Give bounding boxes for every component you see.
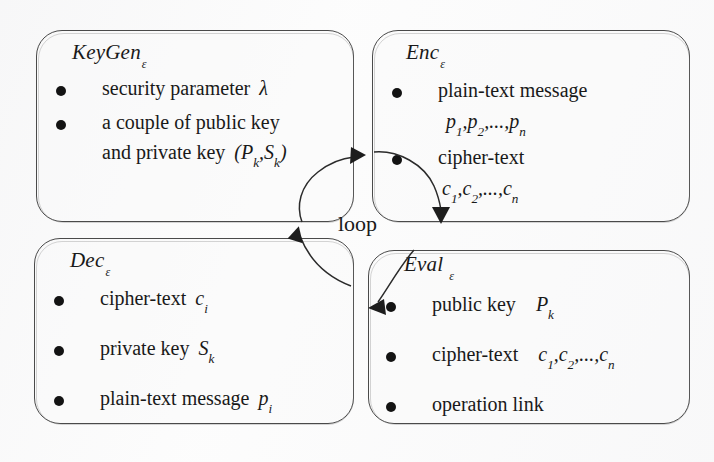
- box-keygen-bullets: security parameterλ a couple of public k…: [48, 78, 348, 166]
- keygen-public-key-subscript: k: [253, 155, 259, 170]
- eval-cn-symbol: c: [599, 343, 608, 365]
- list-item: public keyPk: [378, 294, 690, 318]
- list-item-continuation: p1,p2,...,pn: [384, 111, 684, 135]
- bullet-dot-icon: [56, 86, 66, 96]
- bullet-dot-icon: [54, 346, 64, 356]
- enc-item-2-label: cipher-text: [438, 146, 524, 168]
- dec-item-2-label: private key: [100, 337, 189, 359]
- dec-ciphertext-symbol: c: [195, 287, 204, 309]
- box-eval-title: Evalε: [404, 252, 453, 280]
- list-item: cipher-textci: [46, 288, 350, 312]
- list-item: plain-text message: [384, 80, 684, 100]
- figure-canvas: KeyGenε security parameterλ a couple of …: [0, 0, 714, 462]
- bullet-dot-icon: [54, 396, 64, 406]
- dec-plaintext-subscript: i: [268, 401, 272, 416]
- list-item: private keySk: [46, 338, 350, 362]
- enc-cn-subscript: n: [512, 191, 519, 206]
- enc-c1-symbol: c: [442, 177, 451, 199]
- enc-cn-symbol: c: [503, 177, 512, 199]
- list-item: operation link: [378, 394, 690, 414]
- list-item: security parameterλ: [48, 78, 348, 98]
- eval-item-1-label: public key: [432, 293, 516, 315]
- enc-sep-2: ,...,: [484, 110, 509, 132]
- bullet-dot-icon: [56, 120, 66, 130]
- eval-c-sep-2: ,...,: [574, 343, 599, 365]
- box-eval-bullets: public keyPk cipher-textc1,c2,...,cn ope…: [378, 294, 690, 414]
- keygen-public-key-symbol: (P: [234, 141, 253, 163]
- dec-item-1-symbol: ci: [195, 287, 208, 309]
- dec-privatekey-subscript: k: [208, 351, 214, 366]
- keygen-item-1-symbol: λ: [259, 77, 268, 99]
- eval-c2-symbol: c: [559, 343, 568, 365]
- keygen-item-2-symbols: (Pk,Sk): [234, 141, 286, 163]
- keygen-symbol-close-paren: ): [280, 141, 287, 163]
- keygen-item-2-label-line2: and private key: [102, 141, 225, 163]
- box-enc-title-subscript: ε: [440, 57, 445, 71]
- dec-item-2-symbol: Sk: [198, 337, 214, 359]
- keygen-item-2-label: a couple of public key: [102, 111, 280, 133]
- enc-p2-symbol: p: [468, 110, 478, 132]
- bullet-dot-icon: [386, 402, 396, 412]
- enc-pn-symbol: p: [509, 110, 519, 132]
- enc-p1-subscript: 1: [456, 124, 463, 139]
- list-item-continuation: c1,c2,...,cn: [384, 178, 684, 202]
- dec-ciphertext-subscript: i: [204, 301, 208, 316]
- box-dec-title-subscript: ε: [105, 265, 110, 279]
- eval-item-1-symbol: Pk: [536, 293, 554, 315]
- box-eval-title-text: Eval: [404, 252, 443, 276]
- dec-item-3-symbol: pi: [258, 387, 272, 409]
- eval-item-3-label: operation link: [432, 393, 544, 415]
- loop-label: loop: [338, 211, 377, 237]
- bullet-dot-icon: [54, 296, 64, 306]
- enc-item-1-label: plain-text message: [438, 79, 587, 101]
- list-item: a couple of public key: [48, 112, 348, 132]
- box-keygen-title-text: KeyGen: [72, 40, 141, 64]
- enc-p1-symbol: p: [446, 110, 456, 132]
- list-item: cipher-textc1,c2,...,cn: [378, 344, 690, 368]
- bullet-dot-icon: [392, 88, 402, 98]
- box-keygen-title-subscript: ε: [142, 57, 147, 71]
- box-enc-title: Encε: [406, 40, 444, 68]
- box-dec-title: Decε: [70, 248, 109, 276]
- enc-ciphertext-sequence: c1,c2,...,cn: [442, 177, 518, 199]
- bullet-dot-icon: [386, 302, 396, 312]
- bullet-dot-icon: [392, 155, 402, 165]
- dec-privatekey-symbol: S: [198, 337, 208, 359]
- enc-c-sep-2: ,...,: [478, 177, 503, 199]
- box-dec-title-text: Dec: [70, 248, 104, 272]
- dec-plaintext-symbol: p: [258, 387, 268, 409]
- enc-p2-subscript: 2: [478, 124, 485, 139]
- enc-plaintext-sequence: p1,p2,...,pn: [446, 110, 526, 132]
- list-item: cipher-text: [384, 147, 684, 167]
- list-item-continuation: and private key(Pk,Sk): [48, 142, 348, 166]
- box-dec-bullets: cipher-textci private keySk plain-text m…: [46, 288, 350, 413]
- eval-ciphertext-sequence: c1,c2,...,cn: [538, 343, 614, 365]
- eval-publickey-subscript: k: [548, 307, 554, 322]
- box-enc-bullets: plain-text message p1,p2,...,pn cipher-t…: [384, 80, 684, 202]
- dec-item-3-label: plain-text message: [100, 387, 249, 409]
- box-eval-title-subscript: ε: [449, 269, 454, 283]
- eval-cn-subscript: n: [608, 357, 615, 372]
- eval-c1-subscript: 1: [547, 357, 554, 372]
- enc-pn-subscript: n: [519, 124, 526, 139]
- eval-publickey-symbol: P: [536, 293, 548, 315]
- box-enc-title-text: Enc: [406, 40, 439, 64]
- eval-c2-subscript: 2: [568, 357, 575, 372]
- keygen-item-1-label: security parameter: [102, 77, 250, 99]
- enc-c2-subscript: 2: [471, 191, 478, 206]
- bullet-dot-icon: [386, 352, 396, 362]
- eval-item-2-label: cipher-text: [432, 343, 518, 365]
- dec-item-1-label: cipher-text: [100, 287, 186, 309]
- list-item: plain-text messagepi: [46, 388, 350, 412]
- enc-c1-subscript: 1: [451, 191, 458, 206]
- keygen-private-key-subscript: k: [274, 155, 280, 170]
- keygen-private-key-symbol: S: [264, 141, 274, 163]
- box-keygen-title: KeyGenε: [72, 40, 146, 68]
- eval-c1-symbol: c: [538, 343, 547, 365]
